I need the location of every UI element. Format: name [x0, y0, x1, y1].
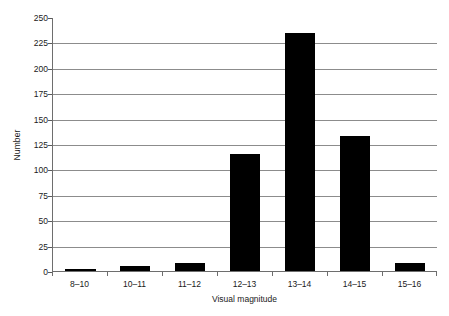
- x-tick-mark-3: [217, 272, 218, 276]
- bar-11-12[interactable]: [175, 263, 205, 271]
- y-tick-label-25: 25: [18, 242, 48, 251]
- bar-12-13[interactable]: [230, 154, 260, 271]
- bar-10-11[interactable]: [120, 266, 150, 271]
- x-tick-cell-5: [327, 272, 382, 277]
- plot-area: [52, 18, 437, 272]
- bar-8-10[interactable]: [65, 269, 95, 271]
- x-tick-cell-0: [52, 272, 107, 277]
- y-tick-label-75: 75: [18, 191, 48, 200]
- bar-slot-15-16: [382, 18, 437, 271]
- x-tick-mark-7: [436, 272, 437, 276]
- x-axis-title: Visual magnitude: [52, 294, 437, 304]
- bar-slot-11-12: [163, 18, 218, 271]
- x-tick-mark-2: [162, 272, 163, 276]
- y-tick-label-125: 125: [18, 141, 48, 150]
- bar-slot-13-14: [272, 18, 327, 271]
- y-tick-label-0: 0: [18, 268, 48, 277]
- x-tick-label-13-14: 13–14: [272, 278, 327, 291]
- x-tick-cell-3: [217, 272, 272, 277]
- y-tick-label-175: 175: [18, 90, 48, 99]
- bar-slot-14-15: [327, 18, 382, 271]
- x-tick-cell-1: [107, 272, 162, 277]
- x-axis-labels: 8–10 10–11 11–12 12–13 13–14 14–15 15–16: [52, 278, 437, 291]
- x-tick-mark-6: [382, 272, 383, 276]
- x-axis-ticks: [52, 272, 437, 277]
- bars-layer: [53, 18, 437, 271]
- x-tick-label-11-12: 11–12: [162, 278, 217, 291]
- x-tick-mark-1: [107, 272, 108, 276]
- bar-13-14[interactable]: [285, 33, 315, 271]
- bar-chart: Number 0 25 50 75 100 125 150 175 200 22…: [0, 0, 449, 316]
- x-tick-mark-0: [52, 272, 53, 276]
- y-tick-label-250: 250: [18, 14, 48, 23]
- x-tick-label-8-10: 8–10: [52, 278, 107, 291]
- x-tick-cell-6: [382, 272, 437, 277]
- bar-slot-8-10: [53, 18, 108, 271]
- y-tick-label-50: 50: [18, 217, 48, 226]
- x-tick-label-15-16: 15–16: [382, 278, 437, 291]
- x-tick-mark-4: [272, 272, 273, 276]
- bar-14-15[interactable]: [340, 136, 370, 271]
- x-tick-mark-5: [327, 272, 328, 276]
- y-tick-label-150: 150: [18, 115, 48, 124]
- bar-slot-10-11: [108, 18, 163, 271]
- y-axis-ticks: 0 25 50 75 100 125 150 175 200 225 250: [18, 18, 48, 272]
- x-tick-label-12-13: 12–13: [217, 278, 272, 291]
- bar-slot-12-13: [218, 18, 273, 271]
- x-tick-cell-2: [162, 272, 217, 277]
- y-tick-label-200: 200: [18, 64, 48, 73]
- y-tick-label-100: 100: [18, 166, 48, 175]
- y-tick-label-225: 225: [18, 39, 48, 48]
- x-tick-label-14-15: 14–15: [327, 278, 382, 291]
- x-tick-label-10-11: 10–11: [107, 278, 162, 291]
- x-tick-cell-4: [272, 272, 327, 277]
- bar-15-16[interactable]: [395, 263, 425, 271]
